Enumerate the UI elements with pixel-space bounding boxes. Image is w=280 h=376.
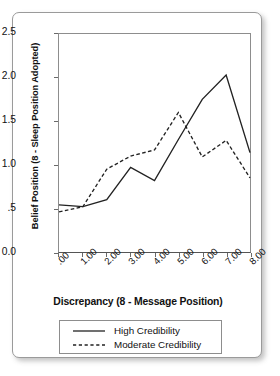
legend-line-solid-icon	[72, 325, 106, 337]
series-line-moderate-credibility	[59, 112, 250, 211]
y-axis-title: Belief Position (8 - Sleep Position Adop…	[30, 21, 40, 251]
plot-area	[58, 33, 251, 253]
chart-legend: High Credibility Moderate Credibility	[59, 320, 222, 354]
legend-label-moderate-credibility: Moderate Credibility	[114, 339, 201, 350]
figure-card: Belief Position (8 - Sleep Position Adop…	[12, 12, 262, 358]
legend-line-dashed-icon	[72, 339, 106, 351]
series-line-high-credibility	[59, 75, 250, 207]
y-axis-tick-label: .5	[0, 202, 16, 213]
y-axis-tick-label: 1.5	[0, 114, 16, 125]
legend-label-high-credibility: High Credibility	[114, 325, 180, 336]
y-axis-tick-label: 2.0	[0, 70, 16, 81]
plot-lines	[59, 34, 250, 252]
legend-entry-high-credibility: High Credibility	[60, 323, 221, 338]
x-axis-title: Discrepancy (8 - Message Position)	[13, 296, 263, 307]
line-chart: Belief Position (8 - Sleep Position Adop…	[13, 13, 263, 359]
legend-entry-moderate-credibility: Moderate Credibility	[60, 337, 221, 352]
y-axis-tick-label: 2.5	[0, 26, 16, 37]
y-axis-tick-label: 1.0	[0, 158, 16, 169]
y-axis-tick-label: 0.0	[0, 246, 16, 257]
